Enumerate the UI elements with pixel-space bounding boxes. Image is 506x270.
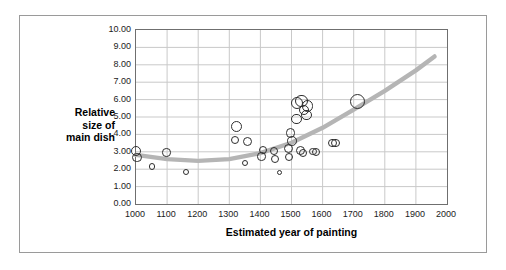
y-axis-tick-label: 7.00	[91, 76, 131, 86]
data-point	[350, 94, 365, 109]
y-axis-tick-label: 8.00	[91, 59, 131, 69]
data-point	[257, 152, 265, 160]
data-point	[132, 153, 141, 162]
x-axis-tick-label: 2000	[426, 209, 466, 219]
x-axis-title: Estimated year of painting	[135, 226, 448, 238]
data-point	[162, 148, 170, 156]
data-point	[183, 169, 189, 175]
x-axis-tick-labels: 1000110012001300140015001600170018001900…	[135, 209, 448, 223]
data-point	[242, 160, 248, 166]
y-axis-tick-label: 5.00	[91, 111, 131, 121]
data-point	[291, 114, 301, 124]
y-axis-tick-label: 10.00	[91, 24, 131, 34]
data-point	[287, 136, 297, 146]
y-axis-tick-label: 6.00	[91, 94, 131, 104]
data-point	[231, 121, 242, 132]
y-axis-tick-label: 9.00	[91, 41, 131, 51]
plot-area	[135, 29, 448, 205]
y-axis-tick-label: 0.00	[91, 198, 131, 208]
data-point	[149, 163, 155, 169]
y-axis-tick-label: 1.00	[91, 181, 131, 191]
y-axis-tick-label: 3.00	[91, 146, 131, 156]
chart-figure: Relative size of main dish 0.001.002.003…	[0, 0, 506, 270]
y-axis-tick-label: 4.00	[91, 128, 131, 138]
data-point	[331, 139, 339, 147]
y-axis-tick-label: 2.00	[91, 163, 131, 173]
y-axis-tick-labels: 0.001.002.003.004.005.006.007.008.009.00…	[88, 29, 131, 205]
